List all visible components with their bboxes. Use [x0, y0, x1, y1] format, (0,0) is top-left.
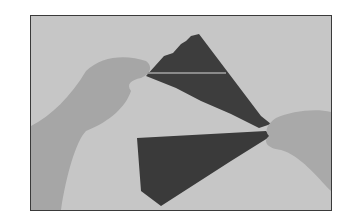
photo-scene: [31, 16, 331, 210]
photo: [30, 15, 332, 211]
